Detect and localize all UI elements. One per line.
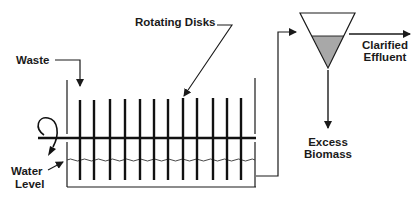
label-water-level-1: Water: [11, 165, 43, 177]
diagram-canvas: [0, 0, 419, 202]
label-water-level-2: Level: [15, 178, 44, 190]
rbc-diagram: Rotating Disks Waste Water Level Clarifi…: [0, 0, 419, 202]
label-rotating-disks: Rotating Disks: [135, 16, 216, 28]
outlet-pipe: [256, 32, 296, 176]
label-effluent: Effluent: [354, 51, 416, 63]
label-clarified: Clarified: [354, 39, 416, 51]
rotation-arrow-icon: [38, 118, 57, 147]
clarifier: [300, 13, 355, 68]
water-level-leader-arrow-icon: [48, 162, 63, 170]
label-excess: Excess: [298, 136, 358, 148]
label-biomass: Biomass: [298, 148, 358, 160]
clarifier-sludge-fill: [312, 36, 344, 67]
disks-leader-arrow-icon: [184, 25, 232, 96]
rotation-arrowhead-icon: [48, 146, 56, 156]
label-waste: Waste: [16, 54, 49, 66]
